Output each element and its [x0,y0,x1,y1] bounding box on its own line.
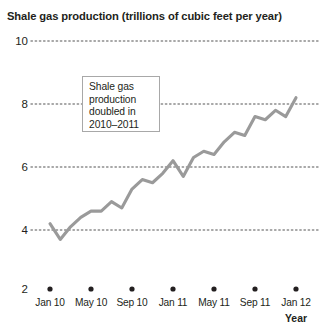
annotation-line-3: doubled in [89,106,159,119]
annotation-line-1: Shale gas [89,81,159,94]
xtick-dot [47,286,52,291]
annotation-line-4: 2010–2011 [89,119,159,132]
plot-area [0,0,326,334]
ytick-label-6: 6 [6,161,28,173]
xtick-dot [88,286,93,291]
x-axis-ticks [47,286,298,291]
xtick-dot [252,286,257,291]
xtick-dot [293,286,298,291]
ytick-label-10: 10 [6,35,28,47]
annotation-callout: Shale gas production doubled in 2010–201… [82,76,160,132]
xtick-label-jan-12: Jan 12 [268,297,324,309]
xtick-dot [129,286,134,291]
ytick-label-4: 4 [6,224,28,236]
shale-gas-chart: Shale gas production (trillions of cubic… [0,0,326,334]
x-axis-title: Year [268,313,324,325]
ytick-label-8: 8 [6,98,28,110]
annotation-line-2: production [89,94,159,107]
gridlines [31,41,319,230]
annotation-text: Shale gas production doubled in 2010–201… [89,81,159,131]
xtick-dot [211,286,216,291]
xtick-dot [170,286,175,291]
ytick-label-2: 2 [6,283,28,295]
